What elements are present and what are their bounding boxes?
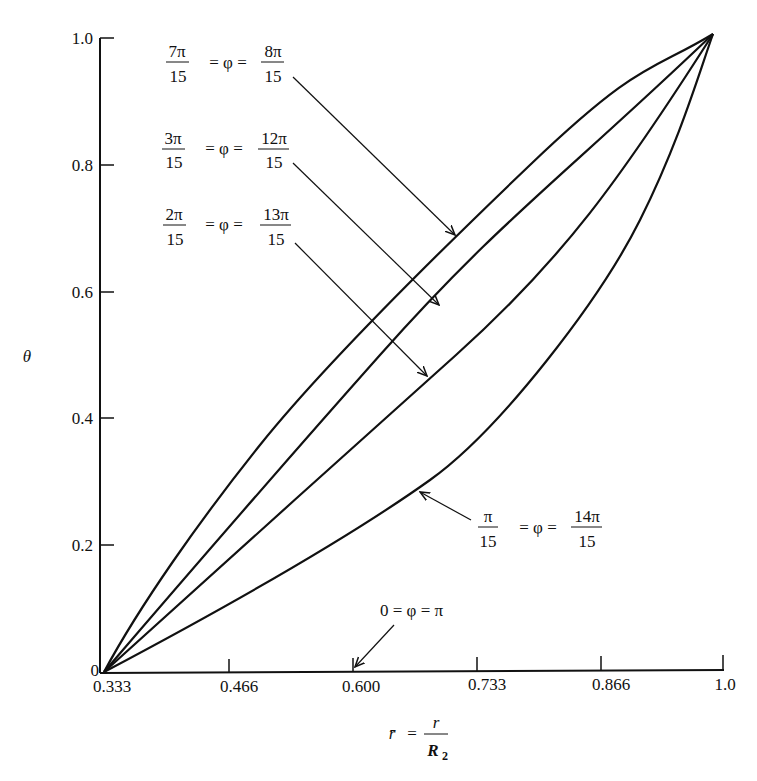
svg-text:2π: 2π: [165, 205, 183, 224]
x-tick-label: 0.733: [468, 675, 506, 694]
svg-text:15: 15: [480, 532, 497, 551]
arrow-7pi-15: [293, 77, 455, 235]
label-3pi-15: 3π 15 = φ = 12π 15: [162, 129, 289, 172]
y-axis-label: θ: [23, 347, 31, 366]
svg-text:8π: 8π: [264, 42, 282, 61]
curve-3pi-15: [104, 34, 713, 672]
x-tick-label: 1.0: [714, 675, 735, 694]
label-0-pi: 0 = φ = π: [380, 601, 443, 620]
svg-text:= φ =: = φ =: [519, 518, 557, 537]
arrow-pi-15: [420, 492, 471, 520]
curve-7pi-15: [104, 34, 713, 672]
arrow-3pi-15: [293, 163, 439, 305]
x-tick-label: 0.333: [93, 677, 131, 696]
svg-text:15: 15: [265, 67, 282, 86]
svg-text:13π: 13π: [263, 205, 289, 224]
y-axis: 1.0 0.8 0.6 0.4 0.2 0 θ: [23, 29, 114, 680]
y-tick-label: 0.2: [72, 536, 93, 555]
label-2pi-15: 2π 15 = φ = 13π 15: [163, 205, 291, 249]
svg-text:2: 2: [442, 749, 448, 763]
svg-text:15: 15: [268, 230, 285, 249]
svg-text:7π: 7π: [168, 42, 186, 61]
x-tick-label: 0.866: [592, 675, 630, 694]
label-7pi-15: 7π 15 = φ = 8π 15: [166, 42, 284, 86]
curve-pi-15: [104, 34, 713, 672]
svg-text:0 = φ = π: 0 = φ = π: [380, 601, 443, 620]
x-tick-label: 0.600: [342, 677, 380, 696]
chart: 1.0 0.8 0.6 0.4 0.2 0 θ 0.333 0.466 0.60…: [0, 0, 757, 781]
svg-text:15: 15: [167, 230, 184, 249]
svg-text:15: 15: [266, 153, 283, 172]
svg-text:3π: 3π: [164, 129, 182, 148]
label-pi-15: π 15 = φ = 14π 15: [478, 507, 602, 551]
svg-text:r: r: [433, 713, 440, 732]
x-tick-label: 0.466: [220, 677, 258, 696]
svg-text:= φ =: = φ =: [209, 53, 247, 72]
y-tick-label: 0.8: [72, 156, 93, 175]
y-tick-label: 1.0: [72, 29, 93, 48]
svg-text:R: R: [426, 741, 438, 760]
y-tick-label: 0.6: [72, 283, 93, 302]
svg-text:15: 15: [170, 67, 187, 86]
arrow-2pi-15: [295, 243, 427, 376]
svg-text:15: 15: [166, 153, 183, 172]
arrow-0-pi: [355, 625, 394, 667]
curves: [104, 34, 713, 672]
svg-text:15: 15: [579, 532, 596, 551]
svg-text:π: π: [484, 507, 493, 526]
svg-text:= φ =: = φ =: [205, 215, 243, 234]
svg-text:14π: 14π: [574, 507, 600, 526]
svg-text:=: =: [407, 724, 417, 743]
x-axis-label: r̄ = r R 2: [389, 713, 448, 763]
svg-text:= φ =: = φ =: [205, 139, 243, 158]
x-axis: 0.333 0.466 0.600 0.733 0.866 1.0 r̄ = r…: [93, 655, 736, 763]
svg-text:r̄: r̄: [389, 724, 397, 743]
y-tick-label: 0.4: [72, 409, 94, 428]
svg-text:12π: 12π: [261, 129, 287, 148]
curve-2pi-15: [104, 34, 713, 672]
